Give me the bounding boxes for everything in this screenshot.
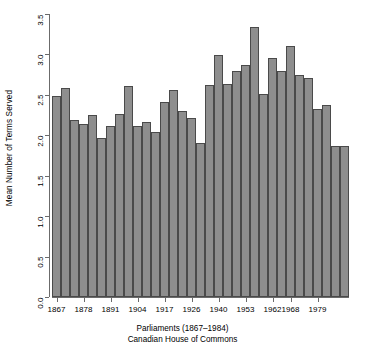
x-axis-tick-label: 1891 bbox=[96, 305, 126, 314]
bar bbox=[259, 94, 267, 297]
bar bbox=[97, 138, 105, 297]
x-axis-tick-label: 1953 bbox=[231, 305, 261, 314]
x-axis-tick-label: 1926 bbox=[177, 305, 207, 314]
bar bbox=[106, 126, 114, 297]
y-axis-tick-label: 2.5 bbox=[36, 95, 45, 129]
bar bbox=[79, 124, 87, 297]
bar bbox=[214, 55, 222, 297]
y-axis-tick bbox=[45, 14, 49, 15]
x-axis-tick bbox=[318, 298, 319, 302]
x-axis-tick-label: 1878 bbox=[69, 305, 99, 314]
x-axis-tick-label: 1940 bbox=[204, 305, 234, 314]
y-axis-tick bbox=[45, 257, 49, 258]
bar bbox=[61, 88, 69, 297]
y-axis-tick-label: 1.5 bbox=[36, 176, 45, 210]
x-axis-tick-label: 1867 bbox=[42, 305, 72, 314]
bar bbox=[340, 146, 348, 297]
x-axis-line bbox=[52, 297, 349, 298]
bar bbox=[88, 115, 96, 297]
bar bbox=[160, 102, 168, 297]
bar bbox=[322, 105, 330, 297]
x-axis-tick bbox=[192, 298, 193, 302]
bar bbox=[196, 143, 204, 297]
x-axis-tick bbox=[138, 298, 139, 302]
bar bbox=[205, 85, 213, 297]
x-axis-tick-label: 1917 bbox=[150, 305, 180, 314]
bar bbox=[295, 75, 303, 297]
bar bbox=[52, 96, 60, 297]
bar bbox=[124, 86, 132, 297]
bar bbox=[304, 78, 312, 297]
y-axis-tick-label: 0.5 bbox=[36, 257, 45, 291]
x-axis-tick-label: 1979 bbox=[303, 305, 333, 314]
bar bbox=[70, 120, 78, 297]
x-axis-title-line2: Canadian House of Commons bbox=[0, 334, 365, 345]
y-axis-tick bbox=[45, 176, 49, 177]
y-axis-tick bbox=[45, 297, 49, 298]
x-axis-tick bbox=[84, 298, 85, 302]
bar bbox=[223, 84, 231, 297]
bar bbox=[115, 114, 123, 297]
x-axis-tick bbox=[273, 298, 274, 302]
bar bbox=[142, 122, 150, 297]
plot-area bbox=[52, 14, 349, 297]
y-axis-title: Mean Number of Terms Served bbox=[2, 0, 18, 296]
y-axis-tick bbox=[45, 216, 49, 217]
bar bbox=[151, 132, 159, 297]
bar bbox=[250, 27, 258, 297]
bar bbox=[232, 71, 240, 297]
chart-figure: Mean Number of Terms Served 0.00.51.01.5… bbox=[0, 0, 365, 360]
x-axis-tick bbox=[111, 298, 112, 302]
bar bbox=[178, 111, 186, 297]
bar bbox=[133, 126, 141, 297]
bar bbox=[241, 65, 249, 297]
y-axis-tick bbox=[45, 54, 49, 55]
y-axis-tick-label: 3.5 bbox=[36, 14, 45, 48]
x-axis-tick-label: 1904 bbox=[123, 305, 153, 314]
bar bbox=[313, 109, 321, 297]
x-axis-tick bbox=[165, 298, 166, 302]
bar bbox=[169, 90, 177, 297]
bar bbox=[268, 58, 276, 297]
y-axis-tick-label: 3.0 bbox=[36, 54, 45, 88]
x-axis-tick bbox=[246, 298, 247, 302]
bar bbox=[286, 46, 294, 297]
x-axis-title-line1: Parliaments (1867–1984) bbox=[0, 323, 365, 334]
y-axis-tick-label: 1.0 bbox=[36, 216, 45, 250]
y-axis-tick bbox=[45, 95, 49, 96]
x-axis-tick bbox=[291, 298, 292, 302]
x-axis-tick bbox=[57, 298, 58, 302]
x-axis-tick bbox=[219, 298, 220, 302]
bar bbox=[277, 71, 285, 297]
y-axis-tick bbox=[45, 135, 49, 136]
x-axis-tick-label: 1968 bbox=[276, 305, 306, 314]
y-axis-tick-label: 2.0 bbox=[36, 135, 45, 169]
y-axis-line bbox=[49, 14, 50, 297]
bar bbox=[187, 118, 195, 297]
bar bbox=[331, 146, 339, 297]
